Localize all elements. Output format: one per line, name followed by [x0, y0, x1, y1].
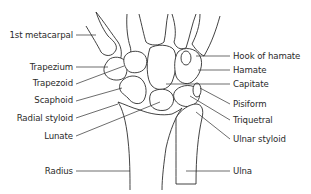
label-hamate: Hamate [233, 65, 266, 75]
label-first-metacarpal: 1st metacarpal [9, 30, 73, 40]
label-radial-styloid: Radial styloid [17, 113, 73, 123]
hook-of-hamate-bone [181, 51, 191, 65]
label-pisiform: Pisiform [233, 99, 266, 109]
lunate-bone [150, 89, 174, 110]
label-ulnar-styloid: Ulnar styloid [233, 134, 286, 144]
label-scaphoid: Scaphoid [34, 95, 73, 105]
label-triquetral: Triquetral [233, 115, 273, 125]
label-lunate: Lunate [44, 131, 73, 141]
label-hook-of-hamate: Hook of hamate [233, 51, 300, 61]
leader-lines-left [76, 35, 160, 171]
carpals [104, 45, 202, 110]
label-trapezium: Trapezium [30, 62, 73, 72]
scaphoid-bone [120, 76, 146, 104]
label-ulna: Ulna [233, 166, 252, 176]
pisiform-bone [193, 83, 201, 97]
label-radius: Radius [45, 166, 73, 176]
label-trapezoid: Trapezoid [33, 78, 73, 88]
fifth-metacarpal-bone [192, 14, 220, 56]
capitate-bone [147, 45, 176, 89]
third-metacarpal-bone [139, 14, 168, 45]
ulna-bone [176, 104, 203, 184]
label-capitate: Capitate [233, 79, 269, 89]
trapezoid-bone [124, 51, 147, 73]
